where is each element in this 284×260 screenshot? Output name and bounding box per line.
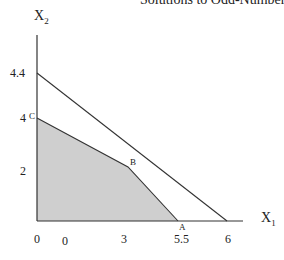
x-axis-label: X1 [261,210,276,228]
point-a-label: A [179,222,186,232]
y-tick-0: 0 [34,232,40,247]
y-tick-2: 2 [20,164,26,179]
point-c-label: C [29,111,35,121]
x-tick-3: 3 [121,232,127,247]
lp-chart [0,0,284,260]
x-tick-0: 0 [62,234,68,249]
feasible-region [37,118,178,221]
x-tick-6: 6 [225,232,231,247]
x-tick-5-5: 5.5 [174,232,189,247]
y-tick-4-4: 4.4 [10,66,25,81]
point-b-label: B [130,157,136,167]
y-tick-4: 4 [20,111,26,126]
y-axis-label: X2 [34,8,49,26]
